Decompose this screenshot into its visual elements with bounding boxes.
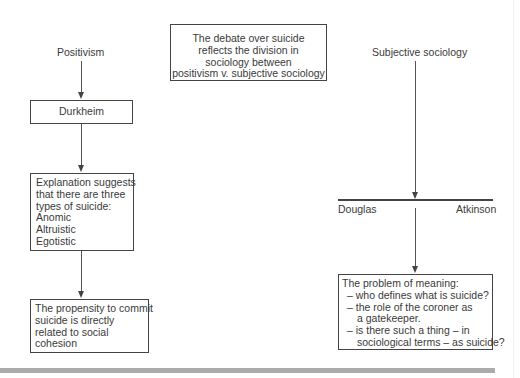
- bottom-divider: [0, 368, 495, 373]
- connector-line: [415, 61, 416, 193]
- title-line: positivism v. subjective sociology: [171, 68, 326, 80]
- suicide-type-egotistic: Egotistic: [36, 236, 133, 248]
- connector-line: [81, 124, 82, 166]
- connector-line: [415, 208, 416, 267]
- propensity-box: The propensity to commit suicide is dire…: [30, 299, 149, 353]
- douglas-label: Douglas: [338, 203, 377, 215]
- title-line: reflects the division in: [171, 45, 326, 57]
- arrow-down-icon: [412, 192, 418, 199]
- problem-of-meaning-box: The problem of meaning: – who defines wh…: [338, 274, 493, 350]
- arrow-down-icon: [78, 291, 84, 298]
- arrow-down-icon: [78, 165, 84, 172]
- split-line: [338, 199, 493, 201]
- explanation-box: Explanation suggests that there are thre…: [30, 173, 134, 251]
- title-box: The debate over suicide reflects the div…: [170, 24, 327, 81]
- propensity-line: cohesion: [35, 338, 148, 350]
- problem-item: – who defines what is suicide?: [342, 290, 492, 302]
- problem-item-cont: sociological terms – as suicide?: [342, 337, 492, 349]
- arrow-down-icon: [78, 92, 84, 99]
- arrow-down-icon: [412, 266, 418, 273]
- subjective-sociology-heading: Subjective sociology: [372, 46, 467, 58]
- durkheim-label: Durkheim: [59, 105, 104, 117]
- durkheim-box: Durkheim: [30, 100, 133, 124]
- atkinson-label: Atkinson: [456, 203, 496, 215]
- positivism-heading: Positivism: [57, 46, 104, 58]
- connector-line: [81, 251, 82, 292]
- page-edge: [513, 0, 514, 378]
- connector-line: [81, 61, 82, 93]
- propensity-line: suicide is directly: [35, 315, 148, 327]
- explanation-line: that there are three: [36, 189, 133, 201]
